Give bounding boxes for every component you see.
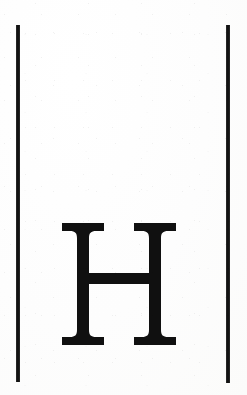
capital-letter-h bbox=[58, 221, 180, 347]
letter-h-glyph-path bbox=[62, 223, 176, 345]
right-vertical-rule bbox=[226, 25, 230, 383]
scanned-page bbox=[0, 0, 247, 395]
left-vertical-rule bbox=[16, 25, 20, 382]
